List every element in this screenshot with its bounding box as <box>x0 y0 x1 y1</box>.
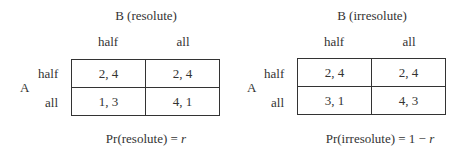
payoff-cell: 2, 4 <box>372 59 446 87</box>
row-header-all: all <box>264 95 284 111</box>
column-header-all: all <box>403 34 416 50</box>
probability-caption: Pr(irresolute) = 1 − r <box>326 131 435 147</box>
payoff-cell: 1, 3 <box>72 88 146 116</box>
matrix-row-half: 2, 4 2, 4 <box>72 60 220 88</box>
row-header-half: half <box>38 66 58 82</box>
matrix-row-all: 1, 3 4, 1 <box>72 88 220 116</box>
caption-text: Pr(resolute) = <box>106 131 181 146</box>
player-a-label: A <box>247 80 256 96</box>
game-irresolute: B (irresolute) half all A half all 2, 4 … <box>232 0 464 152</box>
payoff-cell: 2, 4 <box>72 60 146 88</box>
row-header-half: half <box>264 66 284 82</box>
matrix-row-all: 3, 1 4, 3 <box>298 87 446 115</box>
caption-variable: r <box>181 131 186 146</box>
caption-text: Pr(irresolute) = 1 − <box>326 131 429 146</box>
column-header-half: half <box>324 34 344 50</box>
payoff-cell: 2, 4 <box>146 60 220 88</box>
probability-caption: Pr(resolute) = r <box>106 131 186 147</box>
payoff-cell: 4, 1 <box>146 88 220 116</box>
payoff-cell: 2, 4 <box>298 59 372 87</box>
player-b-title: B (resolute) <box>115 8 177 24</box>
player-a-label: A <box>20 80 29 96</box>
caption-variable: r <box>429 131 434 146</box>
matrix-row-half: 2, 4 2, 4 <box>298 59 446 87</box>
row-header-all: all <box>38 95 58 111</box>
game-resolute: B (resolute) half all A half all 2, 4 2,… <box>0 0 232 152</box>
payoff-cell: 4, 3 <box>372 87 446 115</box>
column-header-half: half <box>98 34 118 50</box>
column-header-all: all <box>177 34 190 50</box>
payoff-matrix: 2, 4 2, 4 3, 1 4, 3 <box>297 58 446 115</box>
payoff-cell: 3, 1 <box>298 87 372 115</box>
payoff-matrix: 2, 4 2, 4 1, 3 4, 1 <box>71 59 220 116</box>
player-b-title: B (irresolute) <box>337 8 407 24</box>
